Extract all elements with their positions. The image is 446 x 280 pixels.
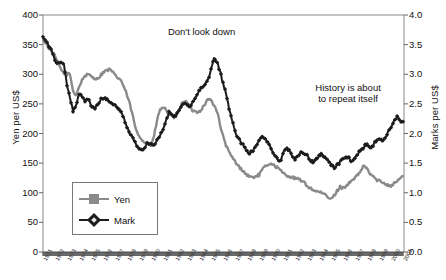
legend-diamond-marker-icon	[79, 214, 109, 226]
history-repeat-annotation: History is aboutto repeat itself	[315, 82, 380, 105]
plot-area	[0, 0, 446, 280]
exchange-rate-chart: Yen per US$ Marks per US$ 40035030025020…	[0, 0, 446, 280]
annotation-line: Don't look down	[168, 26, 235, 38]
chart-legend: YenMark	[72, 182, 158, 235]
legend-label: Yen	[114, 194, 130, 205]
annotation-line: History is about	[315, 82, 380, 94]
annotation-line: to repeat itself	[315, 93, 380, 105]
legend-label: Mark	[114, 215, 135, 226]
series-yen	[43, 39, 403, 199]
legend-square-marker-icon	[79, 193, 109, 205]
dont-look-down-annotation: Don't look down	[168, 26, 235, 38]
data-series-group	[41, 35, 405, 199]
legend-item-mark[interactable]: Mark	[79, 211, 135, 229]
legend-item-yen[interactable]: Yen	[79, 190, 130, 208]
